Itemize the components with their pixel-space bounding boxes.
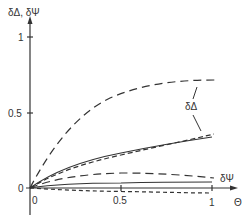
x-axis-arrow-icon — [230, 186, 238, 191]
chart: δΔ, δΨ 1 0.5 0 0 0.5 1 Θ δΔ δΨ — [0, 0, 252, 220]
y-tick-label-1: 1 — [18, 32, 24, 43]
x-tick-label-05: 0.5 — [113, 195, 127, 206]
y-axis-title: δΔ, δΨ — [8, 7, 40, 18]
series-psi-longdash — [30, 173, 214, 188]
x-tick-label-0: 0 — [32, 195, 38, 206]
series — [30, 80, 215, 193]
y-tick-label-0: 0 — [18, 183, 24, 194]
y-tick-label-05: 0.5 — [8, 108, 22, 119]
leader-upper — [193, 87, 197, 99]
x-axis-title: Θ — [234, 197, 242, 208]
leader-lower — [193, 115, 201, 131]
annotation-psi: δΨ — [220, 173, 234, 184]
annotation-delta: δΔ — [185, 101, 198, 112]
x-tick-label-1: 1 — [209, 197, 215, 208]
